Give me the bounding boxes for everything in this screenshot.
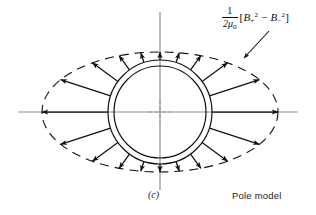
pressure-arrow bbox=[141, 53, 144, 63]
pressure-arrow bbox=[61, 128, 111, 144]
pressure-arrow bbox=[92, 63, 118, 82]
panel-label: (c) bbox=[148, 189, 159, 200]
formula-term1-sup: 2 bbox=[254, 11, 258, 19]
pressure-arrow bbox=[119, 56, 129, 70]
formula-numerator: 1 bbox=[225, 6, 234, 17]
pressure-arrow bbox=[202, 143, 228, 162]
formula-minus: − bbox=[261, 11, 267, 23]
pressure-arrow bbox=[176, 161, 179, 171]
pressure-arrow bbox=[61, 80, 111, 96]
pressure-arrow bbox=[202, 63, 228, 82]
pressure-arrow bbox=[119, 154, 129, 168]
formula-bracket-expression: [B+2 − B−2] bbox=[240, 12, 290, 25]
pressure-arrow bbox=[191, 56, 201, 70]
formula-fraction: 1 2μ0 bbox=[222, 6, 238, 31]
formula-denominator: 2μ0 bbox=[222, 18, 238, 31]
pressure-arrow bbox=[209, 80, 259, 96]
pressure-arrow bbox=[209, 128, 259, 144]
pressure-arrow bbox=[92, 143, 118, 162]
pressure-arrow bbox=[191, 154, 201, 168]
pole-model-diagram bbox=[0, 0, 316, 215]
model-label: Pole model bbox=[232, 190, 282, 201]
pressure-arrow bbox=[176, 53, 179, 63]
formula-close-bracket: ] bbox=[285, 11, 289, 23]
figure-container: 1 2μ0 [B+2 − B−2] (c) Pole model bbox=[0, 0, 316, 215]
axes-group bbox=[18, 12, 298, 190]
magnetic-pressure-formula: 1 2μ0 [B+2 − B−2] bbox=[222, 6, 289, 31]
formula-leader-line bbox=[244, 31, 269, 58]
pressure-arrow bbox=[141, 161, 144, 171]
